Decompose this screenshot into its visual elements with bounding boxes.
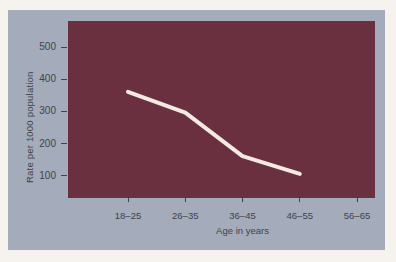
x-tick-label: 18–25 bbox=[102, 210, 154, 222]
x-tick-label: 56–65 bbox=[331, 210, 383, 222]
y-tick-label: 300 bbox=[22, 105, 56, 117]
y-tick-mark bbox=[61, 111, 67, 112]
line-series bbox=[68, 21, 375, 198]
x-tick-mark bbox=[128, 198, 129, 202]
page: { "colors": { "page_bg": "#f6f3ee", "pan… bbox=[0, 0, 396, 262]
chart-panel: Rate per 1000 population 100200300400500… bbox=[8, 10, 385, 250]
x-tick-label: 36–45 bbox=[217, 210, 269, 222]
y-tick-label: 500 bbox=[22, 41, 56, 53]
x-tick-label: 46–55 bbox=[274, 210, 326, 222]
y-tick-label: 200 bbox=[22, 138, 56, 150]
y-tick-mark bbox=[61, 175, 67, 176]
x-axis-title: Age in years bbox=[197, 225, 288, 237]
y-tick-mark bbox=[61, 47, 67, 48]
x-tick-label: 26–35 bbox=[159, 210, 211, 222]
data-line bbox=[128, 92, 300, 174]
y-tick-label: 400 bbox=[22, 73, 56, 85]
y-tick-mark bbox=[61, 143, 67, 144]
plot-area bbox=[68, 21, 375, 198]
x-tick-mark bbox=[185, 198, 186, 202]
x-tick-mark bbox=[242, 198, 243, 202]
x-tick-mark bbox=[357, 198, 358, 202]
y-tick-label: 100 bbox=[22, 170, 56, 182]
x-tick-mark bbox=[299, 198, 300, 202]
y-tick-mark bbox=[61, 79, 67, 80]
